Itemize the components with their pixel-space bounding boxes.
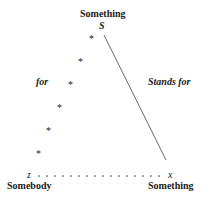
asterisk-6: * <box>36 149 41 159</box>
asterisk-3: * <box>68 80 73 90</box>
top-symbol: S <box>99 21 105 31</box>
bottom-left-symbol: z <box>27 170 31 180</box>
top-label: Something <box>80 9 126 19</box>
asterisk-4: * <box>57 103 62 113</box>
bottom-right-symbol: x <box>168 170 172 180</box>
right-edge-label: Stands for <box>148 77 191 87</box>
asterisk-5: * <box>46 126 51 136</box>
bottom-right-label: Something <box>148 181 194 191</box>
bottom-left-label: Somebody <box>7 181 51 191</box>
asterisk-2: * <box>78 57 83 67</box>
left-edge-label: for <box>36 77 48 87</box>
stands-for-line <box>104 35 166 160</box>
asterisk-1: * <box>89 34 94 44</box>
